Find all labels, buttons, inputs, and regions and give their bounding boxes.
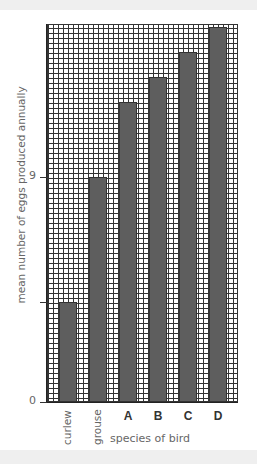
y-axis: [46, 24, 47, 403]
bar-c: [179, 52, 197, 402]
x-category-grouse: grouse: [91, 409, 103, 445]
x-axis: [46, 402, 238, 403]
bar-grouse: [89, 177, 107, 402]
bottom-band: [0, 450, 257, 464]
x-category-curlew: curlew: [61, 410, 73, 445]
y-tick-9: [40, 177, 47, 178]
x-category-b: B: [152, 409, 164, 423]
x-category-c: C: [182, 409, 194, 423]
top-band: [0, 0, 257, 10]
bar-b: [149, 77, 167, 402]
y-tick-unlabeled: [40, 302, 47, 303]
x-category-a: A: [122, 409, 134, 423]
y-axis-label: mean number of eggs produced annually: [15, 119, 27, 304]
bar-a: [119, 102, 137, 402]
bar-curlew: [59, 302, 77, 402]
x-axis-label: species of bird: [110, 432, 190, 445]
y-tick-label-0: 0: [16, 394, 36, 407]
y-tick-0: [40, 402, 47, 403]
bar-d: [209, 27, 227, 402]
x-category-d: D: [212, 409, 224, 423]
